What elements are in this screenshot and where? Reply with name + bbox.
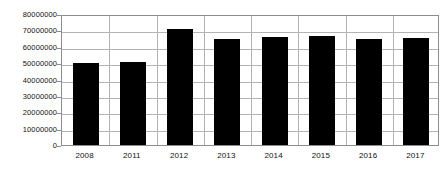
- x-tick-label: 2015: [312, 151, 330, 161]
- y-tick-label: 70000000: [0, 27, 57, 35]
- y-tick-label: 30000000: [0, 93, 57, 101]
- y-tick-label: 80000000: [0, 11, 57, 19]
- x-tick-label: 2017: [406, 151, 424, 161]
- bar: [120, 62, 146, 145]
- bar-chart-figure: 8000000070000000600000005000000040000000…: [0, 0, 447, 172]
- x-tick-label: 2012: [170, 151, 188, 161]
- bar: [167, 29, 193, 145]
- y-tick-label: 60000000: [0, 44, 57, 52]
- y-tick-label: 0: [0, 142, 57, 150]
- x-tick-label: 2016: [359, 151, 377, 161]
- y-tick-mark: [57, 146, 61, 147]
- bar: [403, 38, 429, 145]
- x-tick-label: 2014: [265, 151, 283, 161]
- bar-series: [62, 16, 438, 145]
- y-axis-tick-labels: 8000000070000000600000005000000040000000…: [0, 0, 57, 172]
- bar: [214, 39, 240, 145]
- x-tick-label: 2011: [123, 151, 141, 161]
- bar: [262, 37, 288, 145]
- x-tick-label: 2008: [76, 151, 94, 161]
- y-tick-label: 20000000: [0, 109, 57, 117]
- y-tick-label: 50000000: [0, 60, 57, 68]
- bar: [309, 36, 335, 145]
- y-tick-label: 10000000: [0, 126, 57, 134]
- plot-area: [61, 15, 439, 146]
- bar: [356, 39, 382, 145]
- bar: [73, 63, 99, 145]
- x-tick-label: 2013: [217, 151, 235, 161]
- y-tick-label: 40000000: [0, 77, 57, 85]
- x-axis-tick-labels: 20082011201220132014201520162017: [61, 148, 439, 166]
